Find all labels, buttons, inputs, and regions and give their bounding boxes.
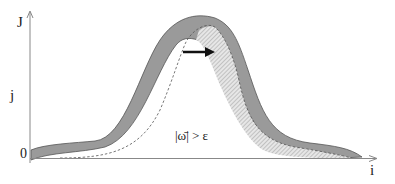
y-axis-label-j: j bbox=[9, 87, 14, 103]
diagram: J j 0 i |ω̄| > ε bbox=[0, 0, 395, 184]
x-axis-label-i: i bbox=[370, 162, 374, 178]
y-axis-label-J: J bbox=[17, 14, 23, 30]
origin-label: 0 bbox=[20, 146, 27, 161]
omega-condition-label: |ω̄| > ε bbox=[175, 128, 209, 143]
